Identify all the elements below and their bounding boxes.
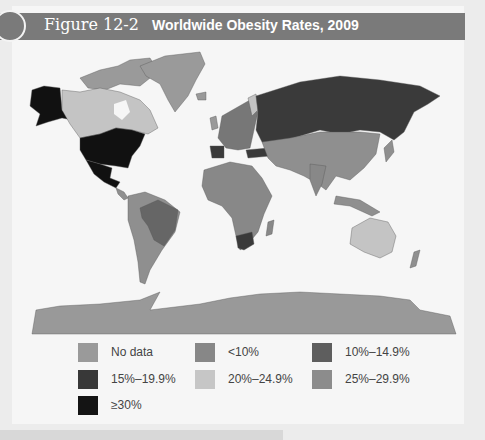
legend-swatch [195,343,215,362]
world-map [0,40,485,336]
legend-label: 15%–19.9% [111,372,176,386]
legend-label: <10% [228,345,259,359]
legend-swatch [78,370,98,389]
region-antarctica [32,292,456,334]
region-new-zealand [410,250,420,268]
legend-label: No data [111,345,153,359]
canada-arctic-islands [80,58,155,90]
page-bottom-bar [0,430,283,440]
figure-title: Worldwide Obesity Rates, 2009 [152,17,359,33]
figure-number: Figure 12-2 [44,15,139,34]
legend-label: ≥30% [111,398,142,412]
legend-label: 20%–24.9% [228,372,293,386]
legend-swatch [78,396,98,415]
region-iceland [196,92,206,100]
region-japan [384,140,394,162]
region-madagascar [266,220,274,236]
legend-swatch [312,343,332,362]
region-spain [210,146,224,158]
region-southeast-asia [334,196,380,216]
legend-label: 10%–14.9% [345,345,410,359]
legend-swatch [78,343,98,362]
region-uk [210,116,218,130]
region-australia [350,218,396,258]
legend-swatch [312,370,332,389]
legend-swatch [195,370,215,389]
legend-label: 25%–29.9% [345,372,410,386]
